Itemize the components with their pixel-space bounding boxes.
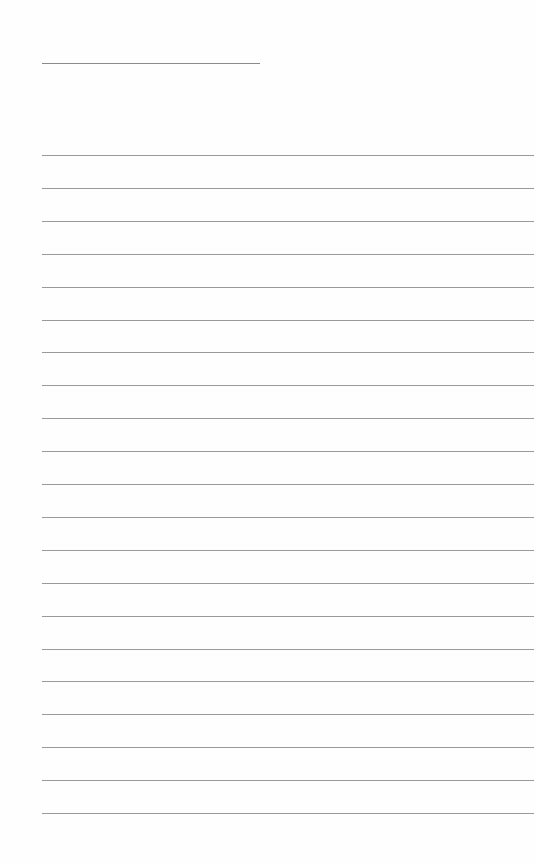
ruled-line bbox=[42, 287, 534, 288]
ruled-line bbox=[42, 155, 534, 156]
ruled-line bbox=[42, 221, 534, 222]
ruled-line bbox=[42, 780, 534, 781]
ruled-line bbox=[42, 352, 534, 353]
ruled-line bbox=[42, 451, 534, 452]
ruled-line bbox=[42, 681, 534, 682]
ruled-line bbox=[42, 583, 534, 584]
ruled-line bbox=[42, 188, 534, 189]
ruled-line bbox=[42, 484, 534, 485]
ruled-line bbox=[42, 714, 534, 715]
ruled-line bbox=[42, 813, 534, 814]
ruled-line bbox=[42, 418, 534, 419]
lined-paper-page bbox=[0, 0, 536, 864]
ruled-line bbox=[42, 517, 534, 518]
ruled-line bbox=[42, 649, 534, 650]
ruled-line bbox=[42, 254, 534, 255]
ruled-line bbox=[42, 747, 534, 748]
ruled-line bbox=[42, 320, 534, 321]
ruled-line bbox=[42, 616, 534, 617]
ruled-line bbox=[42, 550, 534, 551]
ruled-line bbox=[42, 385, 534, 386]
title-underline bbox=[42, 63, 260, 64]
